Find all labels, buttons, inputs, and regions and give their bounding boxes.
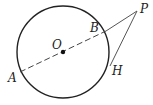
label-a: A [7,71,17,85]
label-o: O [52,38,62,52]
geometry-diagram: O A B P H [0,0,153,105]
label-b: B [89,21,99,35]
label-p: P [139,2,149,16]
label-h: H [111,64,123,78]
